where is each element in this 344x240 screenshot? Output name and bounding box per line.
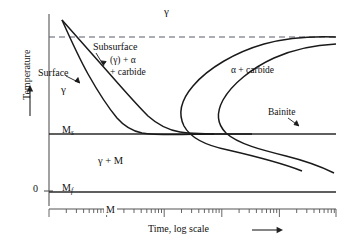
- diagram-canvas: [0, 0, 344, 240]
- label-surface: Surface: [38, 68, 69, 78]
- x-axis-log-ticks: [49, 209, 336, 217]
- label-y-zero: 0: [33, 184, 38, 194]
- y-axis-label: Temperature: [22, 50, 32, 100]
- label-gamma-alpha-carbide-line2: + carbide: [110, 68, 146, 78]
- label-mf-subscript: f: [71, 187, 73, 195]
- label-ms-subscript: s: [71, 129, 74, 137]
- label-ms-letter: M: [62, 124, 71, 135]
- label-martensite-m: M: [104, 205, 117, 215]
- ttt-diagram-figure: γ Subsurface Surface γ (γ) + α + carbide…: [0, 0, 344, 240]
- label-gamma-alpha-carbide-line1: (γ) + α: [110, 56, 146, 66]
- label-gamma-top: γ: [164, 6, 169, 17]
- label-mf-letter: M: [62, 182, 71, 193]
- x-axis-arrow: [252, 227, 283, 233]
- x-axis-label: Time, log scale: [148, 224, 209, 234]
- label-mf: Mf: [62, 183, 73, 195]
- label-ms: Ms: [62, 125, 74, 137]
- label-gamma-left: γ: [61, 84, 66, 95]
- label-gamma-plus-m: γ + M: [98, 156, 123, 167]
- label-bainite: Bainite: [268, 108, 295, 118]
- label-gamma-alpha-carbide: (γ) + α + carbide: [110, 56, 146, 77]
- curve-transformation-start: [181, 37, 336, 171]
- label-alpha-carbide: α + carbide: [231, 66, 274, 76]
- label-subsurface: Subsurface: [93, 42, 137, 52]
